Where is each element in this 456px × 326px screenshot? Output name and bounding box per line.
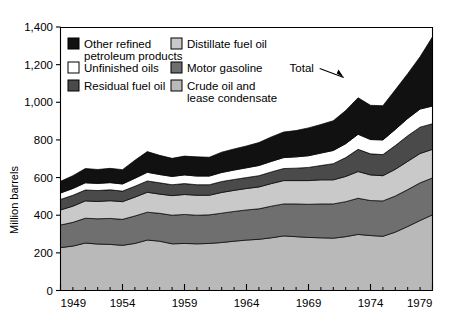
y-tick-label-1400: 1,400 — [24, 21, 53, 33]
legend-swatch-distillate-fuel-oil — [171, 38, 182, 49]
legend-swatch-motor-gasoline — [171, 62, 182, 73]
x-tick-label-1974: 1974 — [358, 297, 384, 309]
legend-label-crude-oil-and-line2: lease condensate — [187, 92, 277, 104]
legend-label-other-refined-line2: petroleum products — [84, 50, 183, 62]
x-tick-label-1964: 1964 — [234, 297, 260, 309]
total-annotation-label: Total — [290, 62, 314, 74]
x-tick-label-1954: 1954 — [110, 297, 136, 309]
legend-swatch-unfinished-oils — [68, 62, 79, 73]
stacked-area-chart: 02004006008001,0001,2001,400 19491954195… — [0, 0, 456, 326]
legend-label-crude-oil-and: Crude oil and — [187, 80, 255, 92]
legend-label-other-refined: Other refined — [84, 38, 151, 50]
x-tick-label-1979: 1979 — [407, 297, 433, 309]
legend-label-residual-fuel-oil: Residual fuel oil — [84, 80, 165, 92]
y-tick-label-1000: 1,000 — [24, 96, 53, 108]
y-tick-group: 02004006008001,0001,2001,400 — [24, 21, 60, 297]
x-tick-label-1959: 1959 — [172, 297, 198, 309]
legend-swatch-crude-oil-and — [171, 80, 182, 91]
legend-swatch-residual-fuel-oil — [68, 80, 79, 91]
y-tick-label-400: 400 — [34, 209, 53, 221]
x-tick-label-1949: 1949 — [61, 297, 87, 309]
annotations-group: Total — [290, 62, 344, 77]
y-tick-label-0: 0 — [47, 285, 53, 297]
x-tick-label-1969: 1969 — [296, 297, 322, 309]
y-axis-title: Million barrels — [8, 166, 20, 234]
legend-swatch-other-refined — [68, 38, 79, 49]
y-tick-label-1200: 1,200 — [24, 59, 53, 71]
area-bands-group — [61, 37, 433, 291]
y-tick-label-800: 800 — [34, 134, 53, 146]
legend-label-distillate-fuel-oil: Distillate fuel oil — [187, 38, 267, 50]
y-tick-label-200: 200 — [34, 247, 53, 259]
chart-legend: Other refinedpetroleum productsUnfinishe… — [68, 38, 277, 105]
legend-label-unfinished-oils: Unfinished oils — [84, 62, 159, 74]
chart-canvas: 02004006008001,0001,2001,400 19491954195… — [0, 0, 456, 326]
y-tick-label-600: 600 — [34, 172, 53, 184]
legend-label-motor-gasoline: Motor gasoline — [187, 62, 262, 74]
